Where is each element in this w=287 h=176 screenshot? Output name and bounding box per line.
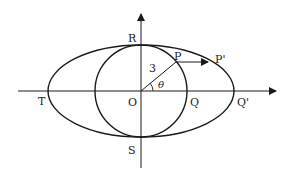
label-o: O [128,96,137,109]
label-s: S [128,144,136,157]
label-p-prime: P' [215,53,225,66]
label-q-prime: Q' [237,96,249,109]
label-t: T [38,95,46,108]
angle-arc [150,83,153,91]
label-r: R [128,32,137,45]
label-p: P [174,50,182,63]
label-q: Q [190,96,199,109]
label-radius: 3 [149,62,156,75]
diagram-canvas: R S T O Q Q' P P' 3 θ [0,0,287,176]
label-theta: θ [158,79,164,90]
